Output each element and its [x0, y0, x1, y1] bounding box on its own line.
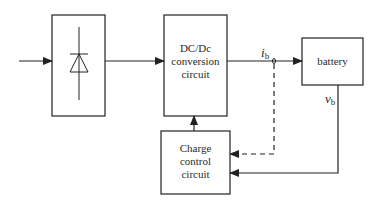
current-feedback-line — [230, 64, 274, 154]
current-label: ib — [261, 45, 269, 61]
charge-control-label-line3: circuit — [161, 168, 230, 181]
dcdc-label: DC/Dc conversion circuit — [164, 42, 227, 81]
battery-label: battery — [302, 55, 363, 68]
charge-control-label-line1: Charge — [161, 142, 230, 155]
current-subscript: b — [265, 51, 270, 61]
voltage-subscript: b — [331, 97, 336, 107]
dcdc-label-line3: circuit — [164, 68, 227, 81]
diode-icon — [70, 27, 88, 100]
dcdc-label-line2: conversion — [164, 55, 227, 68]
charge-control-label-line2: control — [161, 155, 230, 168]
charge-control-label: Charge control circuit — [161, 142, 230, 181]
voltage-feedback-line — [230, 85, 338, 173]
dcdc-label-line1: DC/Dc — [164, 42, 227, 55]
voltage-label: vb — [325, 91, 335, 107]
